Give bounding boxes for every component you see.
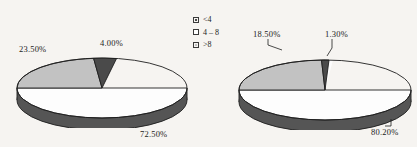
right-slice-gray <box>239 60 325 90</box>
right-pie-chart <box>239 39 411 132</box>
legend-label-gt8: >8 <box>203 40 212 49</box>
legend-label-4-8: 4 – 8 <box>203 28 219 37</box>
legend-swatch-gray-icon <box>193 42 199 48</box>
left-pie-chart <box>17 58 187 130</box>
left-label-gray: 23.50% <box>19 44 46 54</box>
left-label-dark: 4.00% <box>100 38 123 48</box>
legend-swatch-dark-icon <box>193 17 199 23</box>
legend-item-gt8: >8 <box>193 39 219 50</box>
right-label-dark: 1.30% <box>325 29 348 39</box>
leader-line-1-30 <box>327 39 332 56</box>
right-label-white: 80.20% <box>371 127 398 137</box>
legend-label-lt4: <4 <box>203 15 212 24</box>
chart-legend: <4 4 – 8 >8 <box>193 14 219 52</box>
right-label-gray: 18.50% <box>253 29 280 39</box>
legend-swatch-white-icon <box>193 29 199 35</box>
left-slice-gray <box>17 58 102 88</box>
left-label-white: 72.50% <box>140 129 167 139</box>
legend-item-lt4: <4 <box>193 14 219 25</box>
two-pie-chart-figure: <4 4 – 8 >8 23.50% 4.00% 72.50% 18.50% 1… <box>0 0 417 147</box>
leader-line-18-50 <box>268 39 282 50</box>
legend-item-4-8: 4 – 8 <box>193 27 219 38</box>
